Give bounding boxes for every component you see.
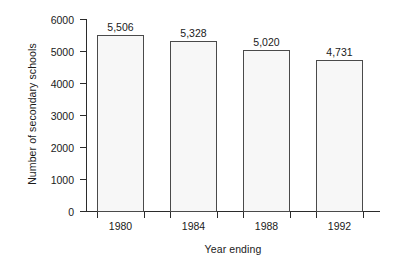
bar-1984 xyxy=(170,41,217,212)
x-category-label-1984: 1984 xyxy=(163,221,224,232)
bar-value-1980: 5,506 xyxy=(90,22,151,33)
x-tick-mark-4 xyxy=(217,212,218,218)
bar-value-1988: 5,020 xyxy=(236,37,297,48)
x-tick-mark-8 xyxy=(363,212,364,218)
y-tick-label-2000: 2000 xyxy=(14,143,74,154)
x-category-label-1992: 1992 xyxy=(309,221,370,232)
y-tick-label-0: 0 xyxy=(14,207,74,218)
bar-1988 xyxy=(243,50,290,212)
bar-value-1984: 5,328 xyxy=(163,28,224,39)
x-category-label-1980: 1980 xyxy=(90,221,151,232)
x-tick-mark-7 xyxy=(316,212,317,218)
x-tick-mark-2 xyxy=(144,212,145,218)
y-tick-label-6000: 6000 xyxy=(14,15,74,26)
x-tick-mark-3 xyxy=(170,212,171,218)
y-tick-label-4000: 4000 xyxy=(14,79,74,90)
bar-1980 xyxy=(97,35,144,212)
y-tick-label-3000: 3000 xyxy=(14,111,74,122)
x-category-label-1988: 1988 xyxy=(236,221,297,232)
x-tick-mark-6 xyxy=(290,212,291,218)
y-tick-label-1000: 1000 xyxy=(14,175,74,186)
x-axis-title: Year ending xyxy=(86,243,380,255)
y-tick-label-5000: 5000 xyxy=(14,47,74,58)
y-axis-line xyxy=(86,19,87,212)
x-tick-mark-5 xyxy=(243,212,244,218)
bar-chart: Number of secondary schools 6000 5000 40… xyxy=(0,0,399,269)
x-tick-mark-1 xyxy=(97,212,98,218)
bar-value-1992: 4,731 xyxy=(309,47,370,58)
bar-1992 xyxy=(316,60,363,212)
